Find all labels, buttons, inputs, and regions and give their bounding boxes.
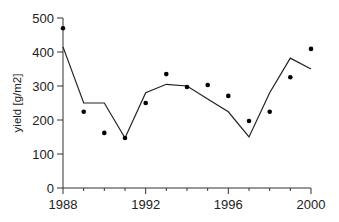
x-tick-label: 1996 <box>214 197 243 212</box>
y-axis-label: yield [g/m2] <box>11 74 23 133</box>
observed-point <box>164 72 169 77</box>
y-axis: 0100200300400500 <box>32 11 63 196</box>
simulated-yield-line <box>63 47 311 138</box>
x-axis: 1988199219962000 <box>49 188 326 212</box>
observed-point <box>185 85 190 90</box>
y-tick-label: 0 <box>47 181 54 196</box>
x-tick-label: 2000 <box>297 197 326 212</box>
observed-point <box>288 75 293 80</box>
yield-chart: 0100200300400500 1988199219962000 yield … <box>0 0 339 222</box>
observed-point <box>143 101 148 106</box>
y-tick-label: 100 <box>32 147 54 162</box>
x-tick-label: 1988 <box>49 197 78 212</box>
y-tick-label: 500 <box>32 11 54 26</box>
observed-point <box>205 83 210 88</box>
observed-point <box>267 110 272 115</box>
observed-point <box>226 94 231 99</box>
observed-point <box>61 26 66 31</box>
x-tick-label: 1992 <box>131 197 160 212</box>
observed-point <box>309 47 314 52</box>
observed-point <box>102 131 107 136</box>
y-tick-label: 300 <box>32 79 54 94</box>
observed-point <box>123 136 128 141</box>
observed-point <box>81 110 86 115</box>
y-tick-label: 400 <box>32 45 54 60</box>
observed-point <box>247 119 252 124</box>
y-tick-label: 200 <box>32 113 54 128</box>
